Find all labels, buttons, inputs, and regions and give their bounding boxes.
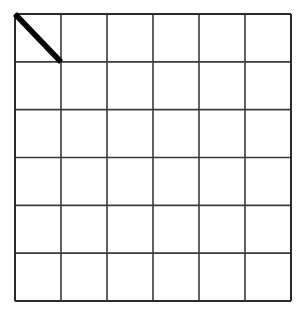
grid-cell-r3-c5[interactable] <box>199 110 245 158</box>
grid-cell-r5-c6[interactable] <box>245 205 291 253</box>
grid-cell-r3-c1[interactable] <box>15 110 61 158</box>
grid-cell-r4-c3[interactable] <box>107 158 153 206</box>
grid-cell-r2-c2[interactable] <box>61 62 107 110</box>
grid-cell-r6-c6[interactable] <box>245 253 291 301</box>
grid-cell-r2-c5[interactable] <box>199 62 245 110</box>
grid-cell-r1-c3[interactable] <box>107 14 153 62</box>
grid-cell-r3-c3[interactable] <box>107 110 153 158</box>
grid-cell-r6-c2[interactable] <box>61 253 107 301</box>
grid-cell-r1-c6[interactable] <box>245 14 291 62</box>
grid-cell-r6-c1[interactable] <box>15 253 61 301</box>
grid-cell-r1-c2[interactable] <box>61 14 107 62</box>
grid-figure <box>0 0 304 320</box>
grid-cell-r2-c3[interactable] <box>107 62 153 110</box>
grid-cell-r2-c1[interactable] <box>15 62 61 110</box>
grid-cell-r4-c1[interactable] <box>15 158 61 206</box>
grid-cell-r2-c6[interactable] <box>245 62 291 110</box>
grid-cell-r1-c5[interactable] <box>199 14 245 62</box>
grid-cell-r5-c2[interactable] <box>61 205 107 253</box>
grid-cell-r6-c3[interactable] <box>107 253 153 301</box>
grid-cell-r5-c5[interactable] <box>199 205 245 253</box>
diagram-canvas <box>0 0 304 320</box>
grid-cell-r3-c2[interactable] <box>61 110 107 158</box>
grid-cell-r4-c4[interactable] <box>153 158 199 206</box>
grid-cell-r1-c4[interactable] <box>153 14 199 62</box>
grid-cell-r3-c4[interactable] <box>153 110 199 158</box>
grid-cell-r6-c5[interactable] <box>199 253 245 301</box>
grid-cell-r5-c3[interactable] <box>107 205 153 253</box>
grid-cell-r5-c1[interactable] <box>15 205 61 253</box>
grid-cell-r4-c5[interactable] <box>199 158 245 206</box>
grid-cell-r4-c2[interactable] <box>61 158 107 206</box>
grid-cell-r3-c6[interactable] <box>245 110 291 158</box>
grid-cell-r5-c4[interactable] <box>153 205 199 253</box>
grid-cell-r6-c4[interactable] <box>153 253 199 301</box>
grid-cell-r2-c4[interactable] <box>153 62 199 110</box>
grid-cell-r4-c6[interactable] <box>245 158 291 206</box>
